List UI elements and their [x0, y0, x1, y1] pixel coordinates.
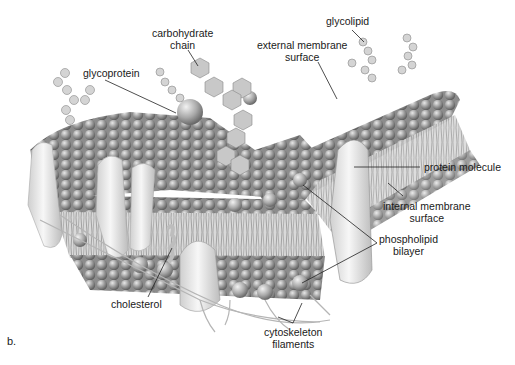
label-external-membrane-surface: external membrane surface — [257, 39, 347, 63]
label-internal-membrane-surface: internal membrane surface — [383, 200, 471, 224]
glycoprotein-dome — [177, 99, 203, 125]
label-carbohydrate-chain: carbohydrate chain — [152, 27, 213, 51]
label-cholesterol: cholesterol — [111, 298, 162, 310]
label-phospholipid-bilayer: phospholipid bilayer — [379, 233, 438, 257]
label-cytoskeleton-filaments: cytoskeleton filaments — [264, 326, 322, 350]
membrane-diagram: carbohydrate chain glycolipid external m… — [0, 0, 515, 365]
external-surface-slab — [30, 112, 330, 200]
panel-letter: b. — [7, 335, 16, 347]
label-glycolipid: glycolipid — [326, 15, 369, 27]
label-glycoprotein: glycoprotein — [83, 67, 140, 79]
label-protein-molecule: protein molecule — [424, 161, 501, 173]
